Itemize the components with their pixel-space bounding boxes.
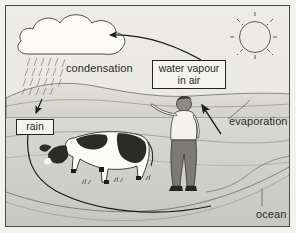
label-evaporation: evaporation [229, 116, 288, 128]
label-water-vapour-line1: water vapour [159, 62, 220, 74]
label-water-vapour-line2: in air [178, 74, 201, 86]
label-water-vapour-in-air: water vapour in air [152, 60, 226, 89]
diagram-frame: condensation water vapour in air rain ev… [5, 5, 290, 227]
water-cycle-diagram: condensation water vapour in air rain ev… [0, 0, 296, 233]
label-rain: rain [16, 119, 54, 135]
label-condensation: condensation [66, 63, 133, 75]
label-ocean: ocean [256, 209, 286, 221]
